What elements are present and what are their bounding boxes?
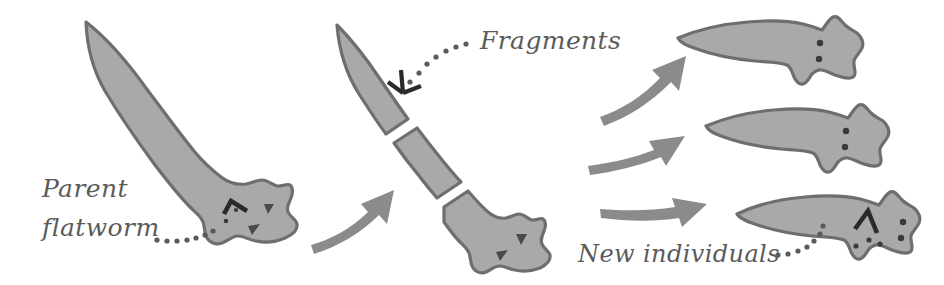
fragment-head-body <box>444 191 550 273</box>
parent-flatworm-pore-1 <box>224 219 229 224</box>
arrow-fragments-to-individual-1 <box>600 56 686 126</box>
new-individual-1-eyespot-upper <box>817 40 823 46</box>
new-individual-3-eyespot-upper <box>900 219 906 225</box>
arrow-parent-to-fragments <box>311 190 394 254</box>
new-individual-1-eyespot-lower <box>816 56 822 62</box>
parent-flatworm-label-line1: Parent <box>41 174 128 203</box>
flatworm-fragmentation-diagram: Parent flatworm <box>0 0 944 285</box>
parent-flatworm-body <box>86 22 297 244</box>
fragment-middle-body <box>394 128 461 198</box>
fragment-cut-pointer <box>388 70 421 93</box>
new-individual-1 <box>678 17 863 85</box>
diagram-canvas: Parent flatworm <box>0 0 944 285</box>
arrow-fragments-to-individual-3 <box>600 198 707 227</box>
new-individual-3-pore-2 <box>877 241 882 246</box>
parent-flatworm-pore-2 <box>234 208 238 212</box>
parent-flatworm-group <box>86 22 297 244</box>
fragments-label: Fragments <box>479 26 621 55</box>
new-individual-2-eyespot-lower <box>842 144 848 150</box>
new-individual-3-pore-1 <box>866 237 871 242</box>
new-individual-2-body <box>706 105 889 173</box>
fragment-middle-piece <box>394 128 461 198</box>
new-individual-2-eyespot-upper <box>843 128 849 134</box>
fragments-group <box>337 25 550 273</box>
fragment-tail-piece <box>337 25 408 134</box>
arrow-fragments-to-individual-2 <box>588 136 685 175</box>
fragment-head-piece <box>444 191 550 273</box>
new-individual-2 <box>706 105 889 173</box>
new-individuals-label: New individuals <box>577 240 780 268</box>
new-individual-1-body <box>678 17 863 85</box>
parent-flatworm-label-line2: flatworm <box>40 213 160 242</box>
new-individual-3-eyespot-lower <box>898 235 904 241</box>
new-individual-3-pore-3 <box>853 243 858 248</box>
fragment-tail-body <box>337 25 408 134</box>
fragments-leader <box>407 41 468 84</box>
